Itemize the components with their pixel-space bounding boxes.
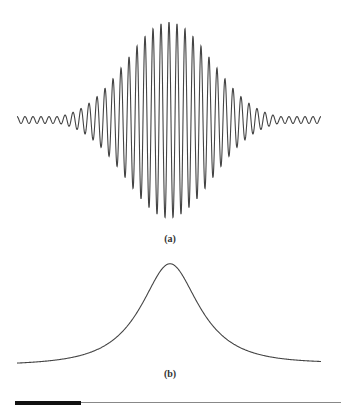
panel-b-label: (b) (150, 368, 190, 379)
panel-a-label: (a) (150, 233, 190, 244)
wave-packet-curve (17, 22, 321, 217)
bottom-rule-accent (15, 401, 81, 405)
peak-curve (17, 264, 321, 363)
figure-canvas (0, 0, 341, 406)
